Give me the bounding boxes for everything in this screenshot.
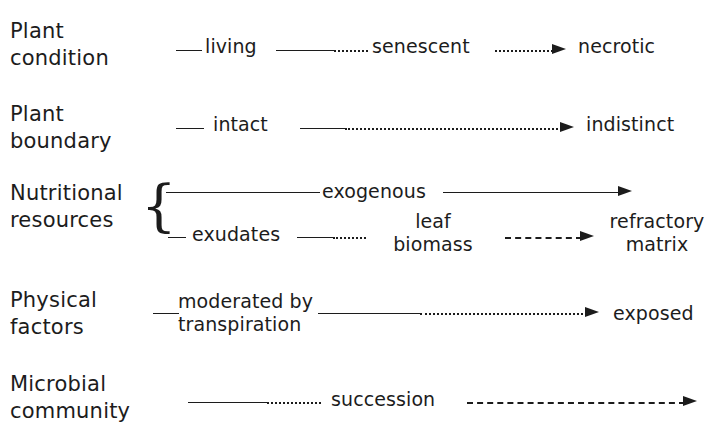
tick-intact (176, 128, 204, 129)
connector-succession-dotted (267, 402, 321, 404)
node-exposed: exposed (613, 302, 694, 325)
row-label-plant-condition: Plant condition (10, 18, 109, 72)
tick-living (176, 50, 202, 51)
tick-exudates (168, 237, 186, 238)
node-leaf-biomass: leaf biomass (380, 210, 486, 256)
node-intact: intact (213, 113, 268, 136)
connector-living-senescent-solid (276, 50, 334, 51)
node-senescent: senescent (372, 35, 470, 58)
arrowhead-exposed (585, 307, 599, 317)
connector-physical-solid (318, 313, 422, 314)
connector-intact-indistinct-dotted (345, 128, 562, 130)
arrowhead-exogenous (618, 186, 632, 196)
node-exogenous: exogenous (322, 180, 426, 203)
connector-exudates-leafbiomass-dotted (333, 237, 366, 239)
row-label-nutritional-resources: Nutritional resources (10, 180, 123, 234)
connector-exudates-leafbiomass-solid (297, 237, 334, 238)
connector-exogenous-inlet (166, 192, 320, 193)
connector-exogenous-outlet (443, 192, 621, 193)
arrowhead-refractory-matrix (580, 231, 594, 241)
node-moderated-by-transpiration: moderated by transpiration (178, 290, 313, 336)
connector-intact-indistinct-solid (300, 128, 346, 129)
node-succession: succession (331, 388, 435, 411)
row-label-microbial-community: Microbial community (10, 371, 130, 425)
node-living: living (205, 35, 257, 58)
connector-physical-dotted (420, 313, 587, 315)
node-exudates: exudates (192, 223, 280, 246)
node-refractory-matrix: refractory matrix (604, 210, 710, 256)
node-necrotic: necrotic (578, 35, 655, 58)
row-label-physical-factors: Physical factors (10, 287, 97, 341)
arrowhead-indistinct (560, 122, 574, 132)
gradient-diagram: Plant condition living senescent necroti… (0, 0, 711, 439)
brace-nutritional-resources: { (141, 178, 177, 234)
node-indistinct: indistinct (586, 113, 674, 136)
tick-moderated-by-transpiration (153, 313, 179, 314)
connector-leafbiomass-refractorymatrix-dashed (505, 237, 582, 239)
row-label-plant-boundary: Plant boundary (10, 101, 112, 155)
connector-succession-solid (188, 402, 269, 403)
connector-succession-outlet-dashed (467, 402, 685, 404)
arrowhead-necrotic (552, 44, 566, 54)
connector-senescent-necrotic-dotted (495, 50, 553, 52)
arrowhead-succession (683, 396, 697, 406)
connector-living-senescent-dotted (334, 50, 368, 52)
